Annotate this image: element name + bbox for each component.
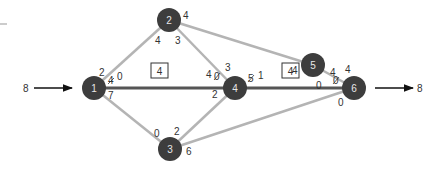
cap-n1-top: 2 [99,67,105,78]
sink-flow-label: 8 [417,83,423,94]
node-1-label: 1 [91,83,97,94]
node-5-label: 5 [310,60,316,71]
node-6-label: 6 [351,83,357,94]
cap-n3-right: 6 [186,146,192,157]
node-3-label: 3 [167,144,173,155]
node-1[interactable]: 1 [82,76,106,100]
cap-n1-right: 0 [117,71,123,82]
node-4[interactable]: 4 [223,76,247,100]
cap-n4-right: 1 [258,70,264,81]
edge-1-3 [94,88,170,149]
node-2-label: 2 [166,15,172,26]
node-6[interactable]: 6 [342,76,366,100]
cap-n2-bottom-left: 4 [155,35,161,46]
node-2[interactable]: 2 [157,8,181,32]
cap-n4-left: 4 [206,69,212,80]
edge-3-6 [170,88,354,149]
cap-n2-right: 4 [183,10,189,21]
node-3[interactable]: 3 [158,137,182,161]
network-diagram: 8 8 4 4 1 2 3 4 5 6 2 4 0 7 4 4 3 [0,0,442,173]
node-4-label: 4 [232,83,238,94]
cap-n1-bottom: 7 [108,90,114,101]
cap-n6-bottom: 0 [338,97,344,108]
cap-n6-top: 4 [345,64,351,75]
cap-n5-bottom: 0 [316,80,322,91]
cap-n3-top-right: 2 [174,126,180,137]
boxed-label-1: 4 [157,66,163,77]
cap-n4-bottom-left: 2 [212,89,218,100]
cap-n4-top: 3 [225,62,231,73]
edge-3-4 [170,88,235,149]
source-flow-label: 8 [23,83,29,94]
cap-n5-left: 4 [292,65,298,76]
cap-n2-bottom-right: 3 [175,35,181,46]
node-5[interactable]: 5 [301,53,325,77]
cap-n3-top-left: 0 [154,128,160,139]
